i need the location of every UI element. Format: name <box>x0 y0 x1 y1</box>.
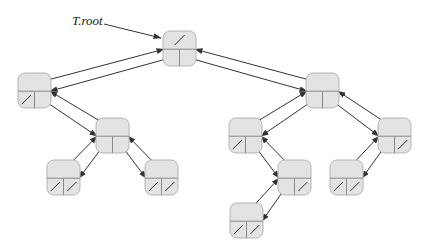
child-pointer-arrow-R-RL <box>261 100 314 137</box>
tree-node-RRL <box>330 160 363 195</box>
tree-nodes <box>18 31 411 238</box>
root-pointer-arrow <box>104 24 161 38</box>
tree-node-R <box>306 73 339 108</box>
root-pointer-label: T.root <box>72 13 103 28</box>
tree-node-root <box>163 31 196 66</box>
parent-pointer-arrow-R-root <box>195 49 323 83</box>
tree-node-LRR <box>145 160 178 195</box>
child-pointer-arrow-L-LR <box>43 100 97 137</box>
tree-node-RR <box>378 118 411 153</box>
tree-node-RLR <box>278 160 311 195</box>
root-pointer: T.root <box>72 13 161 38</box>
tree-diagram: T.root <box>0 0 431 250</box>
tree-node-LR <box>96 118 129 153</box>
tree-node-L <box>18 73 51 108</box>
parent-pointer-arrow-L-root <box>35 49 165 83</box>
tree-node-RLRL <box>230 203 263 238</box>
tree-node-LRL <box>47 160 80 195</box>
tree-node-RL <box>229 118 262 153</box>
